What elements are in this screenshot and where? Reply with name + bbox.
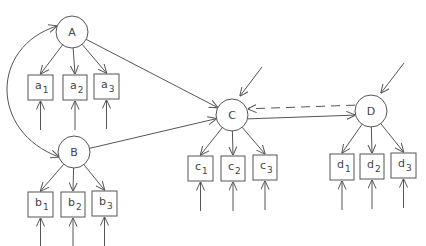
nodes-layer: ABCDa1a2a3b1b2b3c1c2c3d1d2d3 bbox=[28, 16, 416, 217]
disturbance-arrow-C bbox=[240, 67, 262, 96]
latent-label: C bbox=[228, 109, 236, 122]
latent-label: D bbox=[367, 105, 375, 118]
indicator-a1: a1 bbox=[28, 75, 53, 100]
sem-diagram: ABCDa1a2a3b1b2b3c1c2c3d1d2d3 bbox=[0, 0, 426, 246]
loading-arrow-d3 bbox=[381, 124, 404, 152]
loading-arrow-d2 bbox=[371, 127, 372, 153]
indicator-a2: a2 bbox=[63, 75, 87, 100]
indicator-c1: c1 bbox=[188, 156, 213, 181]
loading-arrow-a3 bbox=[82, 44, 106, 73]
indicator-d3: d3 bbox=[391, 153, 416, 178]
indicator-a3: a3 bbox=[94, 74, 119, 99]
latent-label: B bbox=[70, 146, 78, 159]
indicator-c2: c2 bbox=[221, 156, 245, 181]
indicator-c3: c3 bbox=[253, 155, 277, 180]
indicator-d2: d2 bbox=[360, 154, 384, 179]
latent-node-C: C bbox=[216, 99, 248, 131]
indicator-b1: b1 bbox=[28, 192, 53, 217]
loading-arrow-c1 bbox=[201, 128, 223, 155]
disturbance-arrow-D bbox=[381, 63, 404, 93]
path-C-to-D bbox=[248, 115, 355, 119]
latent-label: A bbox=[68, 26, 76, 39]
path-D-to-C bbox=[248, 105, 355, 109]
loading-arrow-c3 bbox=[242, 127, 265, 154]
path-B-to-C bbox=[90, 119, 217, 149]
latent-node-D: D bbox=[355, 95, 387, 127]
loading-arrow-a1 bbox=[41, 45, 63, 74]
latent-node-A: A bbox=[56, 16, 88, 48]
loading-arrow-b2 bbox=[73, 168, 74, 191]
loading-arrow-a2 bbox=[73, 48, 75, 74]
loading-arrow-b3 bbox=[84, 165, 105, 190]
loading-arrow-c2 bbox=[232, 131, 233, 155]
indicator-b3: b3 bbox=[92, 191, 117, 216]
latent-node-B: B bbox=[58, 136, 90, 168]
loading-arrow-b1 bbox=[41, 164, 64, 191]
indicator-d1: d1 bbox=[330, 154, 354, 180]
diagram-canvas: ABCDa1a2a3b1b2b3c1c2c3d1d2d3 bbox=[0, 0, 426, 246]
loading-arrow-d1 bbox=[342, 124, 362, 153]
indicator-b2: b2 bbox=[61, 192, 85, 217]
